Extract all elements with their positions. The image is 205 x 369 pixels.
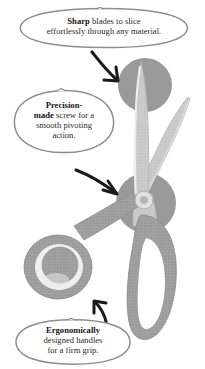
callout-sharp-line1-rest: blades to slice xyxy=(90,16,141,26)
callout-sharp: Sharp blades to slice effortlessly throu… xyxy=(18,7,190,49)
callout-sharp-line2: effortlessly through any material. xyxy=(47,26,161,36)
callout-precision-line2-rest: screw for a xyxy=(54,110,94,120)
callout-precision-line3: smooth pivoting xyxy=(36,120,92,130)
callout-ergonomic-emphasis: Ergonomically xyxy=(46,325,100,335)
right-handle xyxy=(127,215,176,340)
callout-ergonomic: Ergonomically designed handles for a fir… xyxy=(14,318,132,366)
callout-sharp-emphasis: Sharp xyxy=(67,16,89,26)
pivot-screw xyxy=(135,191,153,209)
callout-ergonomic-line3: for a firm grip. xyxy=(47,345,98,355)
arrow-to-pivot xyxy=(76,170,117,194)
callout-precision-line4: action. xyxy=(52,130,75,140)
left-handle-highlight xyxy=(43,273,69,287)
callout-precision-text: Precision- made screw for a smooth pivot… xyxy=(12,100,116,141)
callout-ergonomic-line2: designed handles xyxy=(44,335,103,345)
pivot-screw-center xyxy=(140,196,148,204)
arrow-to-blade-tip xyxy=(92,52,118,81)
callout-precision: Precision- made screw for a smooth pivot… xyxy=(12,88,116,155)
left-handle xyxy=(24,235,92,299)
callout-precision-emphasis-line2: made xyxy=(34,110,54,120)
callout-ergonomic-text: Ergonomically designed handles for a fir… xyxy=(14,325,132,355)
callout-precision-emphasis-line1: Precision- xyxy=(46,100,83,110)
scissors-illustration xyxy=(0,0,205,369)
callout-sharp-text: Sharp blades to slice effortlessly throu… xyxy=(18,16,190,36)
illustration-canvas: Sharp blades to slice effortlessly throu… xyxy=(0,0,205,369)
